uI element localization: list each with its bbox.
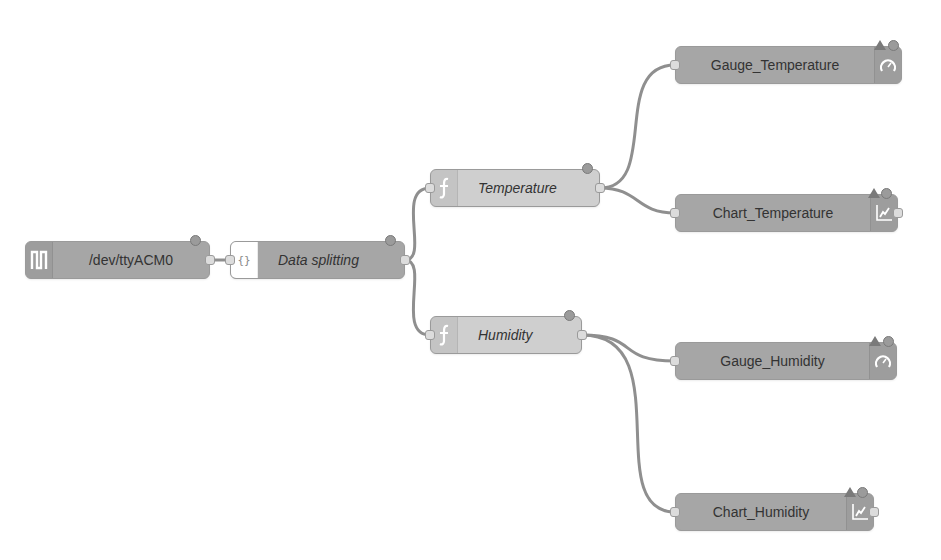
- node-gauge-humidity[interactable]: Gauge_Humidity: [675, 342, 897, 380]
- output-port[interactable]: [205, 255, 215, 265]
- status-indicator: [888, 40, 899, 51]
- wire-temperature-to-chart[interactable]: [600, 188, 675, 213]
- status-indicator: [857, 487, 868, 498]
- node-label: Temperature: [458, 180, 599, 196]
- node-serial-in[interactable]: /dev/ttyACM0: [25, 241, 210, 279]
- status-indicator: [385, 235, 396, 246]
- wire-split-to-humidity[interactable]: [405, 260, 430, 335]
- input-port[interactable]: [670, 208, 680, 218]
- node-label: Chart_Temperature: [676, 205, 870, 221]
- gauge-icon: [869, 343, 896, 379]
- node-chart-temperature[interactable]: Chart_Temperature: [675, 194, 898, 232]
- node-function-temperature[interactable]: Temperature: [430, 169, 600, 207]
- node-chart-humidity[interactable]: Chart_Humidity: [675, 493, 874, 531]
- output-port[interactable]: [869, 507, 879, 517]
- node-gauge-temperature[interactable]: Gauge_Temperature: [675, 46, 902, 84]
- status-indicator: [582, 163, 593, 174]
- input-port[interactable]: [670, 507, 680, 517]
- node-label: Data splitting: [258, 252, 404, 268]
- status-indicator: [883, 336, 894, 347]
- wire-temperature-to-gauge[interactable]: [600, 65, 675, 188]
- node-label: Gauge_Temperature: [676, 57, 874, 73]
- warning-triangle-icon: [868, 188, 880, 198]
- warning-triangle-icon: [874, 40, 886, 50]
- serial-port-icon: [26, 242, 53, 278]
- node-data-splitting[interactable]: {} Data splitting: [230, 241, 405, 279]
- output-port[interactable]: [400, 255, 410, 265]
- function-icon: [431, 170, 458, 206]
- output-port[interactable]: [577, 330, 587, 340]
- function-icon: [431, 317, 458, 353]
- flow-canvas[interactable]: /dev/ttyACM0 {} Data splitting Temperatu…: [0, 0, 941, 560]
- node-function-humidity[interactable]: Humidity: [430, 316, 582, 354]
- status-indicator: [564, 310, 575, 321]
- warning-triangle-icon: [844, 487, 856, 497]
- wire-split-to-temperature[interactable]: [405, 188, 430, 260]
- warning-triangle-icon: [869, 336, 881, 346]
- input-port[interactable]: [225, 255, 235, 265]
- svg-text:{}: {}: [237, 254, 250, 267]
- wires-layer: [0, 0, 941, 560]
- input-port[interactable]: [670, 356, 680, 366]
- input-port[interactable]: [425, 330, 435, 340]
- wire-humidity-to-gauge[interactable]: [582, 335, 675, 361]
- node-label: Gauge_Humidity: [676, 353, 869, 369]
- node-label: /dev/ttyACM0: [53, 252, 209, 268]
- output-port[interactable]: [595, 183, 605, 193]
- node-label: Humidity: [458, 327, 581, 343]
- status-indicator: [881, 188, 892, 199]
- output-port[interactable]: [893, 208, 903, 218]
- status-indicator: [190, 235, 201, 246]
- input-port[interactable]: [425, 183, 435, 193]
- node-label: Chart_Humidity: [676, 504, 846, 520]
- json-braces-icon: {}: [231, 242, 258, 278]
- input-port[interactable]: [670, 60, 680, 70]
- gauge-icon: [874, 47, 901, 83]
